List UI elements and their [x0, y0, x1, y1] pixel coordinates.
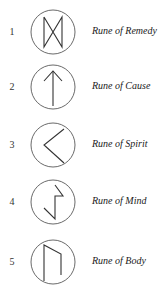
- rune-label: Rune of Cause: [92, 80, 150, 92]
- rune-row-1: 1 Rune of Remedy: [0, 7, 164, 57]
- kenaz-chevron-left-rune-icon: [28, 120, 78, 170]
- rune-number: 3: [7, 139, 17, 151]
- rune-number: 5: [7, 256, 17, 268]
- rune-label: Rune of Spirit: [92, 138, 148, 150]
- rune-row-3: 3 Rune of Spirit: [0, 120, 164, 170]
- rune-number: 1: [7, 26, 17, 38]
- rune-row-5: 5 Rune of Body: [0, 237, 164, 287]
- rune-label: Rune of Remedy: [92, 25, 157, 37]
- rune-row-2: 2 Rune of Cause: [0, 62, 164, 112]
- tiwaz-arrow-up-rune-icon: [28, 62, 78, 112]
- rune-number: 4: [7, 196, 17, 208]
- rune-label: Rune of Mind: [92, 195, 146, 207]
- rune-number: 2: [7, 81, 17, 93]
- uruz-rune-icon: [28, 237, 78, 287]
- rune-row-4: 4 Rune of Mind: [0, 177, 164, 227]
- sowilo-rune-icon: [28, 177, 78, 227]
- dagaz-rune-icon: [28, 7, 78, 57]
- rune-label: Rune of Body: [92, 255, 146, 267]
